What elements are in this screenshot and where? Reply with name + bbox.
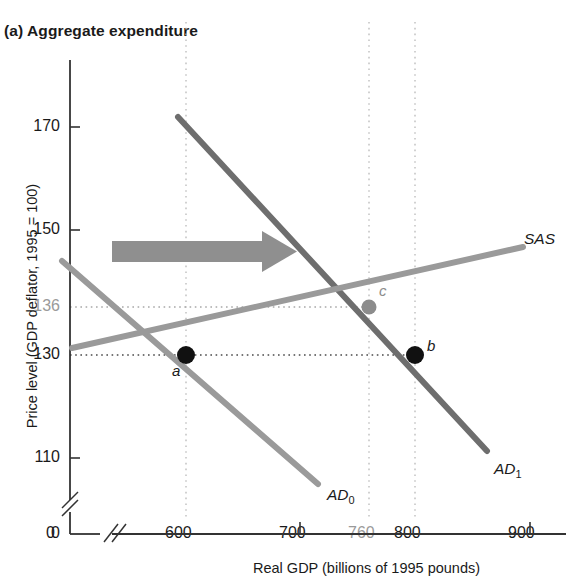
sas-curve <box>72 247 523 348</box>
aggregate-expenditure-figure: (a) Aggregate expenditure Price level (G… <box>0 0 572 583</box>
shift-arrow-icon <box>112 231 297 272</box>
chart-canvas <box>0 0 572 583</box>
x-axis-break-mark-2 <box>112 524 126 542</box>
ad0-curve <box>62 261 318 484</box>
x-axis-break-mark-1 <box>104 524 118 542</box>
point-marker-b <box>406 346 424 364</box>
point-marker-a <box>177 346 195 364</box>
point-marker-c <box>362 300 377 315</box>
